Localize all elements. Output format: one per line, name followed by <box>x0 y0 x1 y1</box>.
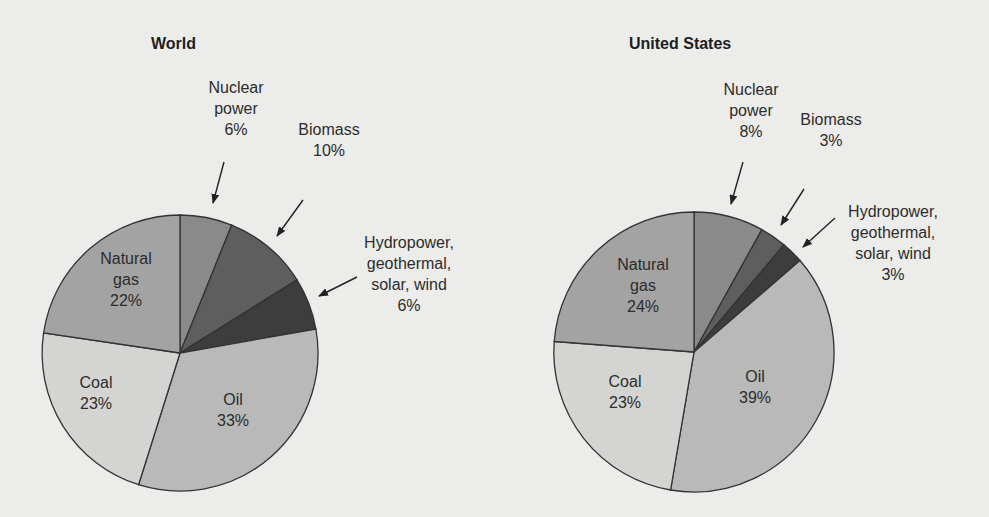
us-biomass-arrow <box>781 189 804 225</box>
us-slice-coal <box>554 342 694 491</box>
world-label-hydro: Hydropower, geothermal, solar, wind 6% <box>354 232 464 316</box>
us-label-biomass: Biomass 3% <box>786 109 876 151</box>
world-pie <box>42 215 318 491</box>
us-label-nuclear: Nuclear power 8% <box>711 79 791 142</box>
us-title: United States <box>629 35 731 53</box>
us-label-oil: Oil 39% <box>725 366 785 408</box>
world-label-biomass: Biomass 10% <box>284 119 374 161</box>
us-label-hydro: Hydropower, geothermal, solar, wind 3% <box>838 201 948 285</box>
world-hydro-arrow <box>319 277 357 296</box>
world-biomass-arrow <box>277 200 303 236</box>
us-pie <box>554 212 834 492</box>
world-title: World <box>151 35 196 53</box>
world-label-oil: Oil 33% <box>203 389 263 431</box>
us-label-coal: Coal 23% <box>595 371 655 413</box>
us-label-natural-gas: Natural gas 24% <box>603 254 683 317</box>
world-label-nuclear: Nuclear power 6% <box>196 77 276 140</box>
world-label-natural-gas: Natural gas 22% <box>86 248 166 311</box>
world-nuclear-arrow <box>213 162 224 203</box>
us-hydro-arrow <box>803 218 835 247</box>
us-nuclear-arrow <box>731 162 743 204</box>
world-label-coal: Coal 23% <box>66 372 126 414</box>
